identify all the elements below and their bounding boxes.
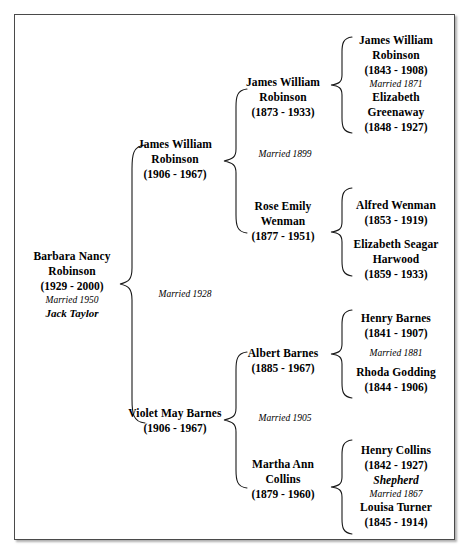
paternal-grandmother-name-line1: Rose Emily <box>233 199 333 214</box>
subject-name-line2: Robinson <box>19 264 125 279</box>
ggm-turner-dates: (1845 - 1914) <box>340 515 452 530</box>
person-subject-barbara-nancy-robinson: Barbara Nancy Robinson (1929 - 2000) Mar… <box>19 249 125 320</box>
father-dates: (1906 - 1967) <box>125 167 225 182</box>
mother-dates: (1906 - 1967) <box>119 421 231 436</box>
subject-name-line1: Barbara Nancy <box>19 249 125 264</box>
ggm-harwood-dates: (1859 - 1933) <box>340 267 452 282</box>
ggf-collins-occupation: Shepherd <box>340 473 452 488</box>
person-paternal-grandfather-james-william-robinson: James William Robinson (1873 - 1933) <box>233 75 333 120</box>
ggm-greenaway-name-line2: Greenaway <box>340 105 452 120</box>
paternal-grandfather-name-line2: Robinson <box>233 90 333 105</box>
subject-married-label: Married 1950 <box>19 294 125 306</box>
person-mother-violet-may-barnes: Violet May Barnes (1906 - 1967) <box>119 406 231 436</box>
subject-dates: (1929 - 2000) <box>19 279 125 294</box>
couple-barnes-godding: Henry Barnes (1841 - 1907) Married 1881 … <box>340 311 452 395</box>
ggm-godding-dates: (1844 - 1906) <box>340 380 452 395</box>
ggf-wenman-name-line1: Alfred Wenman <box>340 198 452 213</box>
ggf-collins-name-line1: Henry Collins <box>340 443 452 458</box>
barnes-couple-married-label: Married 1881 <box>340 347 452 359</box>
ggf-wenman-dates: (1853 - 1919) <box>340 213 452 228</box>
ggf-robinson-dates: (1843 - 1908) <box>340 63 452 78</box>
ggf-collins-dates: (1842 - 1927) <box>340 458 452 473</box>
pedigree-chart-frame: Barbara Nancy Robinson (1929 - 2000) Mar… <box>14 14 455 540</box>
person-maternal-grandmother-martha-ann-collins: Martha Ann Collins (1879 - 1960) <box>233 457 333 502</box>
mother-name-line1: Violet May Barnes <box>119 406 231 421</box>
maternal-grandmother-dates: (1879 - 1960) <box>233 487 333 502</box>
person-paternal-grandmother-rose-emily-wenman: Rose Emily Wenman (1877 - 1951) <box>233 199 333 244</box>
paternal-grandfather-dates: (1873 - 1933) <box>233 105 333 120</box>
ggf-robinson-name-line1: James William <box>340 33 452 48</box>
paternal-grandfather-name-line1: James William <box>233 75 333 90</box>
wenman-couple-spacer <box>340 228 452 237</box>
couple-wenman-harwood: Alfred Wenman (1853 - 1919) Elizabeth Se… <box>340 198 452 282</box>
person-maternal-grandfather-albert-barnes: Albert Barnes (1885 - 1967) <box>233 346 333 376</box>
parents-marriage-label: Married 1928 <box>135 289 235 299</box>
maternal-grandmother-name-line2: Collins <box>233 472 333 487</box>
paternal-grandmother-dates: (1877 - 1951) <box>233 229 333 244</box>
ggm-greenaway-name-line1: Elizabeth <box>340 90 452 105</box>
maternal-grandfather-dates: (1885 - 1967) <box>233 361 333 376</box>
ggf-barnes-name-line1: Henry Barnes <box>340 311 452 326</box>
ggf-robinson-name-line2: Robinson <box>340 48 452 63</box>
ggm-harwood-name-line1: Elizabeth Seagar <box>340 237 452 252</box>
subject-spouse-name: Jack Taylor <box>19 306 125 320</box>
father-name-line2: Robinson <box>125 152 225 167</box>
collins-couple-married-label: Married 1867 <box>340 488 452 500</box>
couple-robinson-greenaway: James William Robinson (1843 - 1908) Mar… <box>340 33 452 135</box>
paternal-grandparents-marriage-label: Married 1899 <box>237 149 333 159</box>
paternal-grandmother-name-line2: Wenman <box>233 214 333 229</box>
father-name-line1: James William <box>125 137 225 152</box>
person-father-james-william-robinson: James William Robinson (1906 - 1967) <box>125 137 225 182</box>
maternal-grandmother-name-line1: Martha Ann <box>233 457 333 472</box>
ggf-barnes-dates: (1841 - 1907) <box>340 326 452 341</box>
ggm-godding-name-line1: Rhoda Godding <box>340 365 452 380</box>
ggm-greenaway-dates: (1848 - 1927) <box>340 120 452 135</box>
robinson-couple-married-label: Married 1871 <box>340 78 452 90</box>
maternal-grandparents-marriage-label: Married 1905 <box>237 413 333 423</box>
maternal-grandfather-name-line1: Albert Barnes <box>233 346 333 361</box>
ggm-harwood-name-line2: Harwood <box>340 252 452 267</box>
ggm-turner-name-line1: Louisa Turner <box>340 500 452 515</box>
couple-collins-turner: Henry Collins (1842 - 1927) Shepherd Mar… <box>340 443 452 530</box>
